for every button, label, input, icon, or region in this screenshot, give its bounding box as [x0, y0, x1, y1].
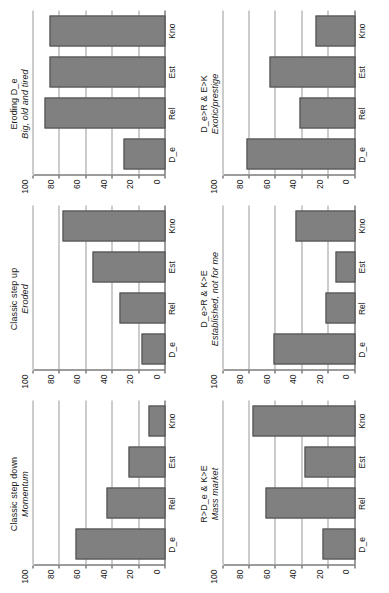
y-tick-label: 80: [47, 179, 56, 188]
chart-panel-exotic-prestige: D_e>R & E>KExotic/prestige020406080100D_…: [196, 4, 386, 199]
bar-series: [223, 400, 355, 564]
bar-slot: [223, 400, 355, 441]
bar: [269, 56, 355, 87]
plot-box: [33, 205, 165, 370]
bar-slot: [33, 400, 165, 441]
chart-subtitle: Exotic/prestige: [209, 10, 220, 197]
plot-box: [33, 400, 165, 565]
y-tick-label: 100: [20, 569, 29, 583]
chart-title: Classic step up: [8, 205, 19, 392]
y-tick-label: 0: [342, 569, 351, 574]
x-tick-label: Rel: [165, 93, 178, 134]
x-axis-labels: D_eRelEstKno: [165, 400, 178, 565]
plot-area: 020406080100: [33, 10, 165, 197]
bar-slot: [223, 133, 355, 174]
y-tick-label: 40: [99, 374, 108, 383]
x-tick-label: D_e: [355, 134, 368, 175]
chart-subtitle: Momentum: [19, 400, 30, 587]
bar-slot: [223, 10, 355, 51]
bar-slot: [223, 523, 355, 564]
bar: [265, 487, 355, 518]
x-tick-label: Rel: [355, 483, 368, 524]
bar-slot: [223, 328, 355, 369]
bar: [325, 292, 354, 323]
y-axis: 020406080100: [33, 175, 165, 197]
y-tick-label: 60: [263, 179, 272, 188]
y-tick-label: 80: [236, 374, 245, 383]
plot-area: 020406080100: [33, 400, 165, 587]
x-axis-labels: D_eRelEstKno: [165, 205, 178, 370]
plot-area: 020406080100: [33, 205, 165, 392]
bar: [128, 446, 165, 477]
x-tick-label: Kno: [165, 10, 178, 51]
y-tick-label: 100: [20, 374, 29, 388]
chart-title: Classic step down: [8, 400, 19, 587]
bar-slot: [223, 51, 355, 92]
y-tick-label: 20: [315, 374, 324, 383]
x-axis-labels: D_eRelEstKno: [165, 10, 178, 175]
bar-slot: [223, 482, 355, 523]
y-axis: 020406080100: [223, 175, 355, 197]
bar-slot: [33, 92, 165, 133]
y-tick-label: 20: [126, 569, 135, 578]
bar: [252, 405, 355, 436]
y-tick-label: 100: [210, 374, 219, 388]
bar-slot: [33, 205, 165, 246]
chart-panel-classic-step-up: Classic step upEroded020406080100D_eRelE…: [6, 199, 196, 394]
bar-slot: [223, 205, 355, 246]
y-tick-label: 80: [236, 179, 245, 188]
x-tick-label: D_e: [355, 524, 368, 565]
bar: [295, 210, 354, 241]
x-tick-label: Rel: [165, 483, 178, 524]
bar-series: [33, 205, 165, 369]
y-tick-label: 80: [47, 374, 56, 383]
y-tick-label: 0: [342, 179, 351, 184]
chart-title: R>D_e & K>E: [198, 400, 209, 587]
bar-slot: [33, 287, 165, 328]
y-tick-label: 40: [289, 569, 298, 578]
plot-box: [223, 205, 355, 370]
y-tick-label: 20: [126, 179, 135, 188]
bar: [299, 97, 354, 128]
bar: [92, 251, 165, 282]
y-tick-label: 60: [263, 569, 272, 578]
y-tick-label: 60: [263, 374, 272, 383]
x-tick-label: Kno: [165, 400, 178, 441]
x-tick-label: Est: [355, 51, 368, 92]
chart-subtitle: Mass market: [209, 400, 220, 587]
bar-slot: [223, 287, 355, 328]
x-tick-label: Est: [165, 246, 178, 287]
bar: [273, 333, 355, 364]
y-tick-label: 20: [315, 569, 324, 578]
bar: [335, 251, 355, 282]
x-axis-labels: D_eRelEstKno: [355, 10, 368, 175]
bar-slot: [33, 51, 165, 92]
chart-panel-eroding-d-e: Eroding D_eBig, old and tired02040608010…: [6, 4, 196, 199]
plot-box: [33, 10, 165, 175]
x-tick-label: Kno: [355, 205, 368, 246]
y-tick-label: 80: [47, 569, 56, 578]
bar-slot: [33, 441, 165, 482]
bar-slot: [33, 328, 165, 369]
x-tick-label: D_e: [165, 134, 178, 175]
y-tick-label: 80: [236, 569, 245, 578]
y-tick-label: 60: [73, 374, 82, 383]
bar-slot: [33, 523, 165, 564]
bar: [75, 528, 165, 559]
y-axis: 020406080100: [33, 370, 165, 392]
x-tick-label: D_e: [355, 329, 368, 370]
chart-panel-classic-step-down: Classic step downMomentum020406080100D_e…: [6, 394, 196, 589]
y-tick-label: 20: [315, 179, 324, 188]
bar-slot: [33, 482, 165, 523]
x-axis-labels: D_eRelEstKno: [355, 400, 368, 565]
y-tick-label: 100: [210, 179, 219, 193]
y-tick-label: 0: [342, 374, 351, 379]
bar: [315, 15, 355, 46]
y-tick-label: 40: [289, 374, 298, 383]
bar-slot: [33, 10, 165, 51]
y-tick-label: 40: [99, 569, 108, 578]
y-tick-label: 0: [152, 569, 161, 574]
bar: [141, 333, 165, 364]
bar: [49, 15, 165, 46]
chart-title: D_e>R & K>E: [198, 205, 209, 392]
